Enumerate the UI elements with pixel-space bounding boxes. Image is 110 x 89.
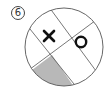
x-mark-icon [44, 31, 54, 41]
tic-tac-toe-circle-diagram [0, 0, 110, 89]
o-mark-icon [76, 37, 86, 47]
